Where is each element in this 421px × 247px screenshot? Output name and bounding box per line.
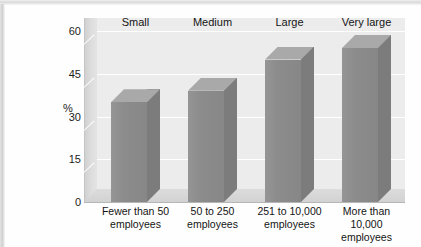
bar-side-face (224, 78, 237, 202)
bar-front-face (265, 60, 301, 203)
y-axis-tick-label: 45 (69, 68, 81, 80)
y-axis-tick-labels: 015304560 (56, 0, 81, 247)
y-axis-tick-label: 0 (75, 196, 81, 208)
category-label-line: More than (320, 205, 414, 218)
bar-column (111, 102, 147, 202)
category-header: Very large (307, 16, 421, 28)
bar-side-face (378, 35, 391, 202)
plot-left-wall (84, 18, 97, 202)
bar-front-face (111, 102, 147, 202)
category-label-line: 10,000 (320, 218, 414, 231)
plot-area (97, 31, 405, 202)
x-axis-line (84, 202, 405, 203)
bar-column (265, 60, 301, 203)
chart-figure: 015304560 % SmallMediumLargeVery large F… (0, 0, 421, 247)
y-axis-line (84, 18, 85, 202)
bar-front-face (188, 91, 224, 202)
bar-front-face (342, 48, 378, 202)
bar-column (188, 91, 224, 202)
category-label-line: employees (320, 231, 414, 244)
bar-side-face (301, 47, 314, 203)
category-label: More than10,000employees (320, 205, 414, 244)
y-axis-title: % (63, 102, 73, 114)
bar-side-face (147, 89, 160, 202)
bar-column (342, 48, 378, 202)
y-axis-tick-label: 15 (69, 153, 81, 165)
